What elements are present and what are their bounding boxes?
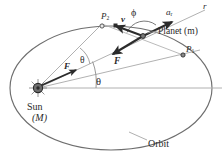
force-vector-at-planet: [113, 36, 143, 54]
velocity-tail-marker: [114, 24, 118, 28]
label-p1-subscript: 1: [192, 48, 195, 54]
label-point-p1: P1: [186, 45, 194, 55]
label-phi-angle: ϕ: [131, 8, 136, 18]
orbit-diagram-figure: r ar ϕ v P2 Planet (m) P1 F F θ θ Sun (M…: [0, 0, 222, 157]
orbit-leader-line: [129, 132, 147, 140]
label-ar-subscript: r: [171, 11, 173, 17]
p1-point-marker: [181, 53, 185, 57]
label-sun-mass: (M): [32, 113, 47, 123]
planet-point-marker: [141, 34, 146, 39]
label-sun: Sun: [27, 102, 43, 112]
diagram-canvas: [0, 0, 222, 157]
label-delta-theta: θ: [80, 56, 85, 66]
label-velocity: v: [121, 15, 125, 24]
label-orbit: Orbit: [148, 139, 169, 149]
label-p2-subscript: 2: [107, 15, 110, 21]
sun-core-icon: [36, 86, 39, 89]
p2-point-marker: [100, 24, 104, 28]
label-theta-angle: θ: [96, 77, 101, 88]
label-point-p2: P2: [101, 12, 109, 22]
label-force-at-sun: F: [64, 62, 70, 71]
label-planet: Planet (m): [158, 27, 198, 37]
label-radius-r: r: [203, 2, 207, 11]
label-force-at-planet: F: [114, 57, 120, 67]
label-radial-acceleration: ar: [166, 8, 172, 18]
radius-line-to-p2: [38, 24, 102, 88]
